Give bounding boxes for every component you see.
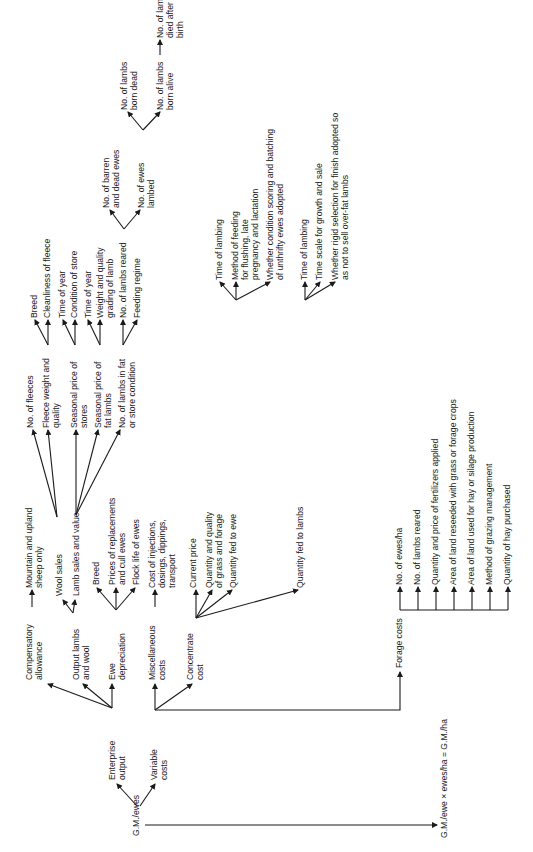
quantity-fed-ewe-label: Quantity fed to ewe <box>229 514 239 588</box>
condition-store-label: Condition of store <box>70 251 80 318</box>
feeding-regime-label: Feeding regime <box>133 258 143 318</box>
variable-costs-label: Variablecosts <box>150 749 170 780</box>
compensatory-allowance-label: Compensatoryallowance <box>25 624 45 680</box>
quantity-fed-lambs-label: Quantity fed to lambs <box>296 507 306 588</box>
flock-life-label: Flock life of ewes <box>132 519 142 585</box>
forage-grazing-label: Method of grazing management <box>485 464 495 585</box>
born-alive-label: No. of lambsborn alive <box>156 62 176 110</box>
lamb-sales-label: Lamb sales and value <box>72 512 82 596</box>
forage-lambs-reared-label: No. of lambs reared <box>413 510 423 585</box>
mountain-upland-label: Mountain and uplandsheep only <box>25 508 45 588</box>
forage-hay-silage-label: Area of land used for hay or silage prod… <box>467 412 477 585</box>
gross-margin-diagram: G.M./ewes Enterpriseoutput Variablecosts… <box>0 0 533 852</box>
current-price-label: Current price <box>189 538 199 588</box>
ewes-lambed-label: No. of eweslambed <box>137 163 157 208</box>
lambs-reared-label: No. of lambs reared <box>119 243 129 318</box>
quantity-grass-label: Quantity and qualityof grass and forage <box>205 512 225 588</box>
prices-replacements-label: Prices of replacementsand cull ewes <box>108 498 128 585</box>
output-lambs-wool-label: Output lambsand wool <box>72 629 92 680</box>
root-label: G.M./ewes <box>132 795 142 836</box>
forage-ewes-ha-label: No. of ewes/ha <box>395 528 405 585</box>
result-equation-label: G.M./ewe × ewes/ha = G.M./ha <box>440 719 450 838</box>
time-scale-label: Time scale for growth and sale <box>315 163 325 280</box>
enterprise-output-label: Enterpriseoutput <box>108 741 128 780</box>
cleanliness-label: Cleanliness of fleece <box>43 239 53 318</box>
weight-quality-label: Weight and qualitygrading of lamb <box>96 247 116 318</box>
forage-hay-purchased-label: Quantity of hay purchased <box>503 485 513 585</box>
seasonal-fat-label: Seasonal price offat lambs <box>94 362 114 428</box>
method-feeding-label: Method of feedingfor flushing, latepregn… <box>231 189 260 280</box>
wool-sales-label: Wool sales <box>55 554 65 596</box>
no-fleeces-label: No. of fleeces <box>26 375 36 428</box>
breed-fleece-label: Breed <box>30 295 40 318</box>
forage-fertilizers-label: Quantity and price of fertilizers applie… <box>431 439 441 585</box>
time-of-lambing-ewe-label: Time of lambing <box>215 219 225 280</box>
whether-condition-label: Whether condition scoring and batchingof… <box>266 129 286 280</box>
time-of-lambing-lambs-label: Time of lambing <box>300 219 310 280</box>
fleece-weight-label: Fleece weight andquality <box>42 358 62 428</box>
misc-costs-label: Miscellaneouscosts <box>148 626 168 680</box>
seasonal-stores-label: Seasonal price ofstores <box>70 362 90 428</box>
forage-reseeded-label: Area of land reseeded with grass or fora… <box>449 399 459 585</box>
lambs-fat-store-label: No. of lambs in fator store condition <box>118 359 138 428</box>
died-after-birth-label: No. of lambsdied afterbirth <box>156 0 185 38</box>
time-of-year-fat-label: Time of year <box>84 271 94 318</box>
misc-leaf-label: Cost of injections,dosings, dippings,tra… <box>148 519 177 588</box>
whether-rigid-label: Whether rigid selection for finish adopt… <box>331 113 351 280</box>
concentrate-cost-label: Concentratecost <box>186 633 206 680</box>
breed-label: Breed <box>92 562 102 585</box>
time-of-year-stores-label: Time of year <box>58 271 68 318</box>
ewe-depreciation-label: Ewedepreciation <box>108 633 128 680</box>
barren-dead-ewes-label: No. of barrenand dead ewes <box>102 150 122 208</box>
forage-costs-label: Forage costs <box>395 618 405 668</box>
born-dead-label: No. of lambsborn dead <box>120 62 140 110</box>
